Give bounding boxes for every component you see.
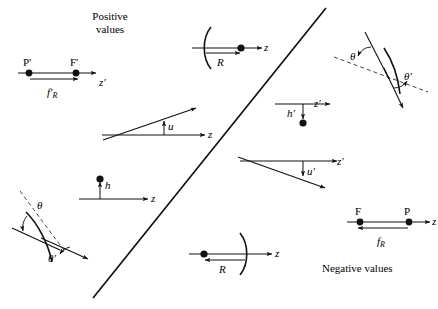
label-height-h: h xyxy=(105,179,111,191)
point-P-dot xyxy=(406,219,413,226)
label-angle-u-prime: u′ xyxy=(307,165,315,177)
region-label-positive: Positive values xyxy=(62,10,158,36)
region-label-negative: Negative values xyxy=(322,262,438,275)
label-radius-positive: R xyxy=(217,56,224,68)
center-of-curvature-dot xyxy=(200,250,207,257)
focal-length-subscript: R xyxy=(52,91,57,100)
panel-focal-length-negative xyxy=(347,219,430,228)
panel-height-h-positive xyxy=(79,175,148,199)
label-angle-theta-positive: θ xyxy=(37,199,42,211)
panel-radius-positive xyxy=(192,27,262,69)
panel-angles-theta-negative xyxy=(334,32,428,108)
panel-focal-length-positive xyxy=(18,70,96,79)
label-axis-z-prime-1: z′ xyxy=(99,76,106,88)
point-P-prime-dot xyxy=(26,70,33,77)
angle-theta-arc xyxy=(358,47,371,56)
label-focal-length-positive: f′R xyxy=(47,82,57,100)
point-F-dot xyxy=(357,219,364,226)
panel-angle-u-positive xyxy=(102,108,205,140)
label-axis-z-3: z xyxy=(208,128,212,140)
refracted-ray-line xyxy=(384,68,403,108)
label-point-P-prime: P′ xyxy=(23,56,32,68)
incident-ray-line xyxy=(12,228,60,250)
label-focal-length-negative: fR xyxy=(377,231,385,249)
label-radius-negative: R xyxy=(219,263,226,275)
panel-height-h-negative xyxy=(275,104,330,127)
label-point-F: F xyxy=(355,205,361,217)
normal-dashed-line xyxy=(20,191,66,253)
label-axis-z-9: z xyxy=(275,247,279,259)
focal-length-subscript-neg: R xyxy=(380,240,385,249)
label-angle-theta-prime-negative: θ′ xyxy=(404,70,412,82)
panel-angle-u-negative xyxy=(238,157,337,188)
surface-arc xyxy=(384,48,400,94)
label-angle-u: u xyxy=(168,120,174,132)
label-height-h-prime: h′ xyxy=(287,107,295,119)
angle-theta-arc xyxy=(23,216,27,231)
label-axis-z-4: z xyxy=(151,192,155,204)
label-axis-z-prime-7: z′ xyxy=(314,97,321,109)
label-axis-z-2: z xyxy=(264,41,268,53)
label-axis-z-10: z xyxy=(432,215,436,227)
label-point-P: P xyxy=(404,205,410,217)
point-F-prime-dot xyxy=(73,70,80,77)
label-axis-z-prime-8: z′ xyxy=(337,155,344,167)
sign-convention-figure: Positive values Negative values P′ F′ z′… xyxy=(0,0,438,309)
center-of-curvature-dot xyxy=(237,44,244,51)
panel-radius-negative xyxy=(189,233,272,275)
label-angle-theta-negative: θ xyxy=(350,50,355,62)
label-angle-theta-prime-positive: θ′ xyxy=(48,252,56,264)
label-point-F-prime: F′ xyxy=(70,56,79,68)
image-point-dot xyxy=(299,119,306,126)
object-point-dot xyxy=(96,175,103,182)
